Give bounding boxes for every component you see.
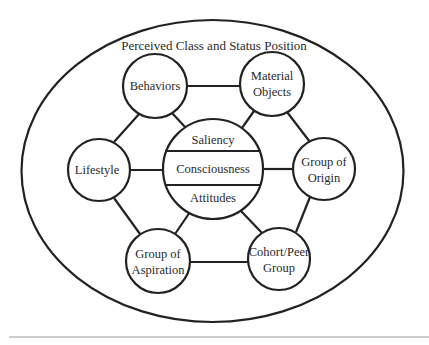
node-cohort-peer-group-circle [248,228,310,290]
edge-group-of-origin-cohort [296,197,310,232]
node-cohort-peer-group-label-2: Group [263,261,295,275]
node-group-of-origin: Group of Origin [293,138,355,200]
node-cohort-peer-group-label-1: Cohort/Peer [249,245,310,259]
node-group-of-origin-label-1: Group of [301,155,347,169]
center-section-attitudes: Attitudes [190,191,236,205]
node-group-of-origin-circle [293,138,355,200]
node-lifestyle: Lifestyle [68,139,130,201]
node-group-of-aspiration-label-2: Aspiration [132,263,186,277]
node-group-of-aspiration-label-1: Group of [135,247,181,261]
node-lifestyle-label: Lifestyle [75,163,120,177]
edge-behaviors-center [172,113,186,128]
edge-material-objects-group-of-origin [287,112,310,142]
edge-group-of-aspiration-center [175,212,190,234]
edge-behaviors-lifestyle [114,113,140,142]
node-behaviors-label: Behaviors [130,79,181,93]
node-cohort-peer-group: Cohort/Peer Group [248,228,310,290]
edge-cohort-center [241,211,262,233]
center-section-consciousness: Consciousness [176,162,250,176]
center-node: Saliency Consciousness Attitudes [163,119,263,219]
node-group-of-aspiration: Group of Aspiration [126,229,190,293]
node-group-of-origin-label-2: Origin [308,171,341,185]
diagram-title: Perceived Class and Status Position [121,38,307,53]
node-material-objects: Material Objects [240,52,304,116]
edge-lifestyle-group-of-aspiration [114,198,140,234]
node-material-objects-label-1: Material [251,69,294,83]
edge-material-objects-center [242,111,254,128]
center-section-saliency: Saliency [191,133,235,147]
node-material-objects-circle [240,52,304,116]
node-behaviors: Behaviors [123,54,187,118]
node-group-of-aspiration-circle [126,229,190,293]
class-status-diagram: Perceived Class and Status Position Sali… [0,0,429,345]
node-material-objects-label-2: Objects [253,85,291,99]
